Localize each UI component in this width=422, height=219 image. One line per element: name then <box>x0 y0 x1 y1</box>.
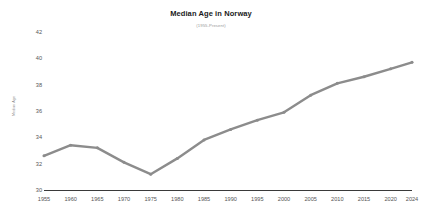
chart-subtitle: (1955-Present) <box>0 23 422 28</box>
data-point-marker <box>256 119 259 122</box>
chart-title: Median Age in Norway <box>0 9 422 18</box>
data-point-marker <box>229 128 232 131</box>
data-point-marker <box>389 67 392 70</box>
y-tick-label: 34 <box>16 134 42 140</box>
x-axis-tick-labels: 1955196019651970197519801985199019952000… <box>44 196 412 210</box>
data-point-marker <box>309 94 312 97</box>
data-point-marker <box>123 161 126 164</box>
data-point-marker <box>283 111 286 114</box>
data-point-marker <box>96 146 99 149</box>
y-tick-label: 42 <box>16 29 42 35</box>
data-point-marker <box>363 75 366 78</box>
x-axis-spine <box>44 190 412 191</box>
data-point-marker <box>411 61 414 64</box>
y-tick-label: 32 <box>16 161 42 167</box>
data-point-marker <box>69 144 72 147</box>
y-tick-label: 30 <box>16 187 42 193</box>
y-tick-label: 38 <box>16 82 42 88</box>
series-polyline <box>44 62 412 174</box>
y-axis-title: Median Age <box>12 76 16 136</box>
plot-area <box>44 32 412 190</box>
data-point-marker <box>336 82 339 85</box>
chart-figure: Median Age in Norway (1955-Present) 3032… <box>0 0 422 219</box>
data-point-marker <box>176 157 179 160</box>
data-point-marker <box>203 138 206 141</box>
x-tick-label: 2024 <box>392 196 422 202</box>
y-tick-label: 40 <box>16 55 42 61</box>
y-tick-label: 36 <box>16 108 42 114</box>
data-point-marker <box>149 173 152 176</box>
median-age-line-series <box>44 32 412 190</box>
data-point-marker <box>43 154 46 157</box>
